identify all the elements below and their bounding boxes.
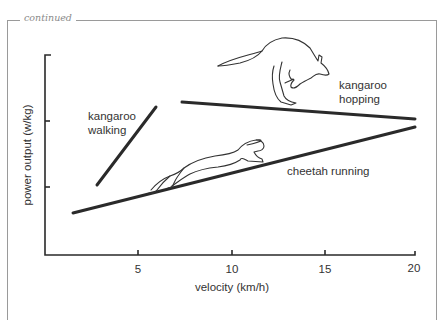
series-label-kangaroo-walking: kangaroo walking: [87, 110, 139, 136]
y-axis-label: power output (w/kg): [21, 104, 33, 205]
x-axis-label: velocity (km/h): [195, 281, 269, 293]
cheetah-illustration-icon: [149, 140, 264, 194]
x-tick-label: 10: [226, 263, 239, 275]
series-label-cheetah-running: cheetah running: [287, 165, 369, 177]
x-tick-label: 20: [408, 262, 421, 274]
x-tick-label: 15: [319, 263, 332, 275]
series-label-kangaroo-hopping: kangaroo hopping: [339, 79, 390, 105]
series-line-kangaroo-hopping: [182, 102, 415, 119]
x-tick-label: 5: [135, 263, 141, 275]
kangaroo-illustration-icon: [218, 38, 329, 105]
